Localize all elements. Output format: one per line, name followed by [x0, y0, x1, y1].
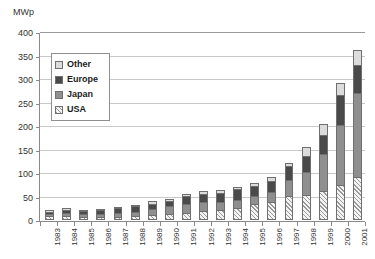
x-axis-tick-label: 2000	[343, 228, 352, 252]
bar-segment-japan	[250, 196, 259, 204]
x-axis-tick-mark	[40, 222, 41, 226]
x-axis-tick-label: 1996	[275, 228, 284, 252]
bar-segment-japan	[165, 206, 174, 214]
y-axis-tick-mark	[36, 127, 39, 128]
stacked-bar[interactable]	[267, 177, 276, 220]
stacked-bar[interactable]	[353, 50, 362, 220]
bar-segment-europe	[353, 65, 362, 93]
bar-slot	[315, 32, 332, 220]
bar-slot	[349, 32, 366, 220]
bar-segment-usa	[302, 195, 311, 220]
stacked-bar[interactable]	[182, 194, 191, 220]
x-axis-tick-label: 1997	[292, 228, 301, 252]
bar-segment-usa	[267, 202, 276, 220]
x-axis-tick-mark	[211, 222, 212, 226]
x-axis-tick-label: 1983	[53, 228, 62, 252]
bar-segment-japan	[233, 200, 242, 208]
x-axis-tick-mark	[228, 222, 229, 226]
bar-segment-usa	[285, 196, 294, 220]
bar-segment-europe	[267, 181, 276, 192]
legend-item-label: USA	[67, 105, 86, 114]
x-axis-tick-label: 1995	[258, 228, 267, 252]
stacked-bar[interactable]	[250, 183, 259, 220]
stacked-bar[interactable]	[79, 210, 88, 220]
x-axis-tick-mark	[194, 222, 195, 226]
y-axis-tick-mark	[36, 57, 39, 58]
bar-segment-usa	[336, 185, 345, 220]
legend-item-europe[interactable]: Europe	[55, 72, 105, 87]
stacked-bar[interactable]	[45, 210, 54, 220]
bar-segment-other	[302, 147, 311, 155]
y-axis-tick-label: 300	[5, 75, 33, 85]
x-axis-tick-label: 1990	[172, 228, 181, 252]
bar-segment-europe	[336, 95, 345, 124]
stacked-bar[interactable]	[302, 147, 311, 220]
legend-item-japan[interactable]: Japan	[55, 87, 105, 102]
bar-segment-japan	[353, 93, 362, 177]
bar-slot	[178, 32, 195, 220]
x-axis-tick-mark	[245, 222, 246, 226]
x-axis-tick-mark	[262, 222, 263, 226]
x-axis-tick-mark	[331, 222, 332, 226]
stacked-bar[interactable]	[216, 190, 225, 220]
stacked-bar[interactable]	[131, 205, 140, 220]
stacked-bar[interactable]	[336, 83, 345, 220]
bar-slot	[246, 32, 263, 220]
bar-segment-usa	[250, 204, 259, 220]
y-axis-tick-label: 150	[5, 146, 33, 156]
x-axis-tick-label: 1984	[70, 228, 79, 252]
stacked-bar[interactable]	[199, 191, 208, 220]
bar-segment-japan	[285, 180, 294, 196]
legend-item-other[interactable]: Other	[55, 57, 105, 72]
legend-item-label: Other	[67, 60, 91, 69]
x-axis-tick-mark	[348, 222, 349, 226]
x-axis-tick-label: 1988	[138, 228, 147, 252]
y-axis-tick-label: 100	[5, 169, 33, 179]
x-axis-tick-label: 1986	[104, 228, 113, 252]
bar-slot	[195, 32, 212, 220]
stacked-bar[interactable]	[165, 199, 174, 220]
x-axis-tick-label: 1991	[189, 228, 198, 252]
x-axis-tick-mark	[74, 222, 75, 226]
x-axis-tick-mark	[177, 222, 178, 226]
bar-slot	[109, 32, 126, 220]
x-axis-tick-label: 1994	[241, 228, 250, 252]
y-axis-tick-label: 350	[5, 52, 33, 62]
bar-segment-japan	[336, 125, 345, 185]
bar-segment-usa	[131, 216, 140, 220]
bar-slot	[212, 32, 229, 220]
stacked-bar[interactable]	[233, 187, 242, 220]
bar-segment-europe	[216, 193, 225, 202]
legend-item-usa[interactable]: USA	[55, 102, 105, 117]
stacked-bar[interactable]	[319, 124, 328, 220]
x-axis-tick-label: 1993	[224, 228, 233, 252]
x-axis-tick-mark	[297, 222, 298, 226]
x-axis-tick-label: 1999	[326, 228, 335, 252]
stacked-bar[interactable]	[96, 209, 105, 220]
x-axis-tick-label: 1998	[309, 228, 318, 252]
bar-segment-other	[319, 124, 328, 135]
hatched-swatch	[55, 106, 63, 114]
x-axis-tick-mark	[57, 222, 58, 226]
stacked-bar[interactable]	[285, 163, 294, 220]
y-axis-tick-label: 200	[5, 122, 33, 132]
stacked-bar[interactable]	[114, 207, 123, 220]
legend-item-label: Europe	[67, 75, 98, 84]
bar-slot	[332, 32, 349, 220]
stacked-bar[interactable]	[62, 208, 71, 220]
bar-slot	[263, 32, 280, 220]
y-axis-tick-label: 400	[5, 28, 33, 38]
y-axis-tick-mark	[36, 198, 39, 199]
bar-slot	[144, 32, 161, 220]
x-axis-tick-label: 1987	[121, 228, 130, 252]
x-axis-tick-marks	[39, 222, 365, 227]
y-axis-tick-mark	[36, 151, 39, 152]
x-axis-tick-label: 2001	[360, 228, 369, 252]
bar-segment-other	[353, 50, 362, 65]
bar-segment-usa	[319, 191, 328, 220]
bar-segment-usa	[199, 211, 208, 220]
x-axis-tick-label: 1992	[207, 228, 216, 252]
bar-segment-japan	[319, 154, 328, 192]
stacked-bar[interactable]	[148, 201, 157, 220]
bar-segment-japan	[267, 192, 276, 202]
